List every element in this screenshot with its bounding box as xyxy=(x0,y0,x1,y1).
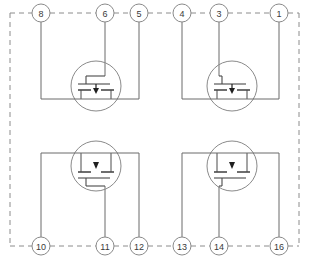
schematic-diagram: 8 6 5 4 3 1 1 xyxy=(0,0,309,263)
pin-3[interactable]: 3 xyxy=(210,4,228,22)
pin-4[interactable]: 4 xyxy=(173,4,191,22)
pin-1[interactable]: 1 xyxy=(270,4,288,22)
wiring-top-right xyxy=(182,22,279,99)
wiring-top-left xyxy=(41,22,139,99)
pin-16[interactable]: 16 xyxy=(270,237,288,255)
pin-13[interactable]: 13 xyxy=(173,237,191,255)
pin-14[interactable]: 14 xyxy=(210,237,228,255)
mosfet-bottom-left xyxy=(71,141,121,191)
package-outline xyxy=(10,13,299,246)
wiring-bottom-right xyxy=(182,153,279,237)
pin-10[interactable]: 10 xyxy=(32,237,50,255)
schematic-canvas: 8 6 5 4 3 1 1 xyxy=(0,0,309,263)
pin-terminals: 8 6 5 4 3 1 1 xyxy=(32,4,288,255)
pin-12[interactable]: 12 xyxy=(130,237,148,255)
pin-11[interactable]: 11 xyxy=(96,237,114,255)
pin-8[interactable]: 8 xyxy=(32,4,50,22)
mosfet-top-right xyxy=(207,61,257,111)
pin-5[interactable]: 5 xyxy=(130,4,148,22)
mosfet-top-left xyxy=(71,61,121,111)
pin-6[interactable]: 6 xyxy=(96,4,114,22)
mosfet-bottom-right xyxy=(207,141,257,191)
wiring-bottom-left xyxy=(41,153,139,237)
